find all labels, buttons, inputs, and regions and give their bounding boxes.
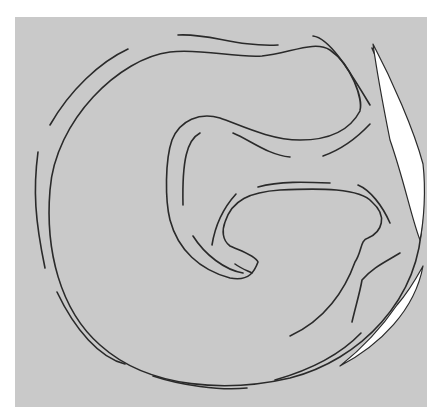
g-shape-diagram — [0, 0, 438, 420]
